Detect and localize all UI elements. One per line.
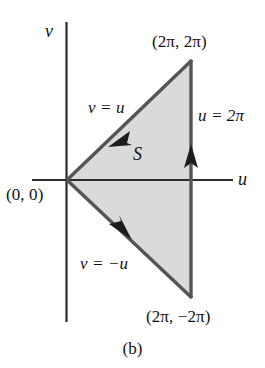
- edge-label-lower: v = −u: [80, 255, 128, 272]
- edge-label-right: u = 2π: [198, 107, 244, 124]
- region-label-s: S: [133, 145, 142, 163]
- edge-label-upper: v = u: [88, 99, 125, 116]
- vertex-label-top-right: (2π, 2π): [152, 33, 207, 50]
- vertex-label-bottom-right: (2π, −2π): [146, 308, 210, 325]
- figure-caption: (b): [0, 340, 265, 357]
- vertex-label-origin: (0, 0): [6, 186, 43, 203]
- v-axis-label: v: [45, 22, 53, 40]
- region-diagram-canvas: [0, 0, 265, 368]
- u-axis-label: u: [238, 170, 247, 188]
- uv-plane-figure: v u (2π, 2π) (2π, −2π) (0, 0) v = u v = …: [0, 0, 265, 368]
